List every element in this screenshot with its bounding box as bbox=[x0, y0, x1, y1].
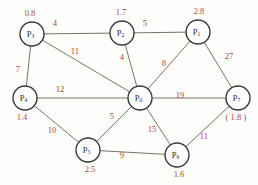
graph-edge bbox=[100, 151, 165, 155]
graph-edge bbox=[26, 46, 30, 86]
node-value-label: 0.8 bbox=[25, 8, 36, 18]
graph-node-p3[interactable]: P3 bbox=[20, 22, 44, 46]
graph-node-p7[interactable]: P7 bbox=[226, 86, 250, 110]
edge-weight-label: 15 bbox=[148, 124, 157, 134]
node-value-label: 1.6 bbox=[174, 169, 185, 179]
node-value-label: 2.8 bbox=[194, 6, 205, 16]
node-label-subscript: 5 bbox=[87, 149, 90, 155]
graph-node-p4[interactable]: P4 bbox=[13, 86, 37, 110]
edge-weight-label: 7 bbox=[16, 64, 21, 74]
graph-node-p1[interactable]: P1 bbox=[186, 20, 210, 44]
graph-node-p5[interactable]: P5 bbox=[76, 138, 100, 162]
edge-weight-label: 8 bbox=[162, 58, 166, 68]
graph-node-p0[interactable]: P0 bbox=[128, 86, 152, 110]
graph-canvas: P3P2P1P4P0P7P5P6 457114827121910515911 0… bbox=[0, 0, 258, 185]
node-label-subscript: 6 bbox=[176, 154, 179, 160]
edge-weight-label: 5 bbox=[110, 111, 114, 121]
node-value-label: 1.7 bbox=[116, 7, 127, 17]
edge-weight-label: 19 bbox=[176, 90, 185, 100]
edge-weight-label: 5 bbox=[143, 18, 147, 28]
graph-edge bbox=[148, 41, 190, 89]
node-label-subscript: 1 bbox=[197, 31, 200, 37]
edge-weight-label: 4 bbox=[120, 52, 125, 62]
node-label-subscript: 2 bbox=[121, 32, 124, 38]
edge-weight-label: 11 bbox=[200, 131, 208, 141]
graph-edge bbox=[44, 33, 110, 34]
node-label-subscript: 4 bbox=[24, 97, 27, 103]
graph-edge bbox=[125, 45, 137, 87]
graph-edge bbox=[134, 32, 186, 33]
node-label-subscript: 0 bbox=[139, 97, 142, 103]
node-label-subscript: 3 bbox=[31, 33, 34, 39]
node-value-label: 2.5 bbox=[85, 164, 96, 174]
node-label-subscript: 7 bbox=[237, 97, 240, 103]
graph-node-p6[interactable]: P6 bbox=[165, 143, 189, 167]
nodes-layer: P3P2P1P4P0P7P5P6 bbox=[13, 20, 250, 167]
graph-edge bbox=[204, 42, 232, 87]
node-value-label: ( 1.8 ) bbox=[226, 112, 247, 122]
graph-diagram: P3P2P1P4P0P7P5P6 457114827121910515911 0… bbox=[0, 0, 258, 185]
edge-weight-label: 9 bbox=[120, 150, 124, 160]
edge-weight-label: 12 bbox=[56, 84, 65, 94]
edge-weight-label: 10 bbox=[48, 125, 57, 135]
graph-edge bbox=[34, 106, 79, 143]
node-value-label: 1.4 bbox=[17, 112, 28, 122]
edge-weight-label: 27 bbox=[225, 51, 234, 61]
edge-weight-label: 4 bbox=[53, 18, 58, 28]
edge-weight-label: 11 bbox=[71, 46, 79, 56]
graph-node-p2[interactable]: P2 bbox=[110, 21, 134, 45]
